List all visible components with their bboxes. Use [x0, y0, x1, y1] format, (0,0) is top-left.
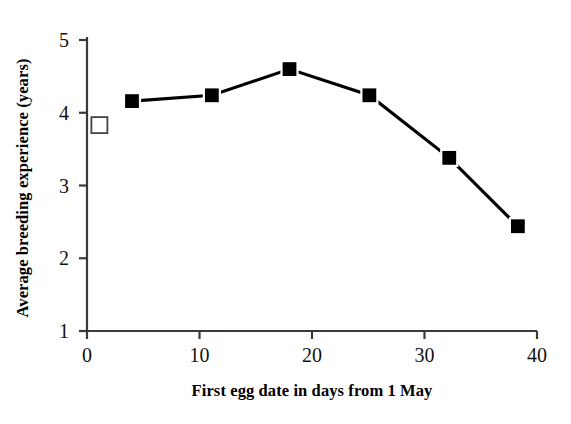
filled-square-marker [282, 61, 298, 77]
filled-square-marker [124, 93, 140, 109]
axes [79, 37, 537, 339]
filled-square-marker [441, 150, 457, 166]
filled-square-marker [361, 87, 377, 103]
x-tick-label: 30 [405, 345, 445, 365]
filled-square-marker [510, 218, 526, 234]
series-line [132, 69, 518, 226]
data-series [91, 61, 526, 234]
y-tick-label: 2 [43, 248, 69, 268]
chart-figure: Average breeding experience (years) Firs… [0, 0, 571, 424]
y-tick-label: 3 [43, 176, 69, 196]
open-square-marker [91, 117, 107, 133]
y-tick-label: 1 [43, 321, 69, 341]
filled-square-marker [204, 87, 220, 103]
y-tick-label: 5 [43, 30, 69, 50]
x-tick-label: 10 [180, 345, 220, 365]
x-tick-label: 0 [67, 345, 107, 365]
x-tick-label: 20 [292, 345, 332, 365]
y-tick-label: 4 [43, 103, 69, 123]
x-tick-label: 40 [517, 345, 557, 365]
